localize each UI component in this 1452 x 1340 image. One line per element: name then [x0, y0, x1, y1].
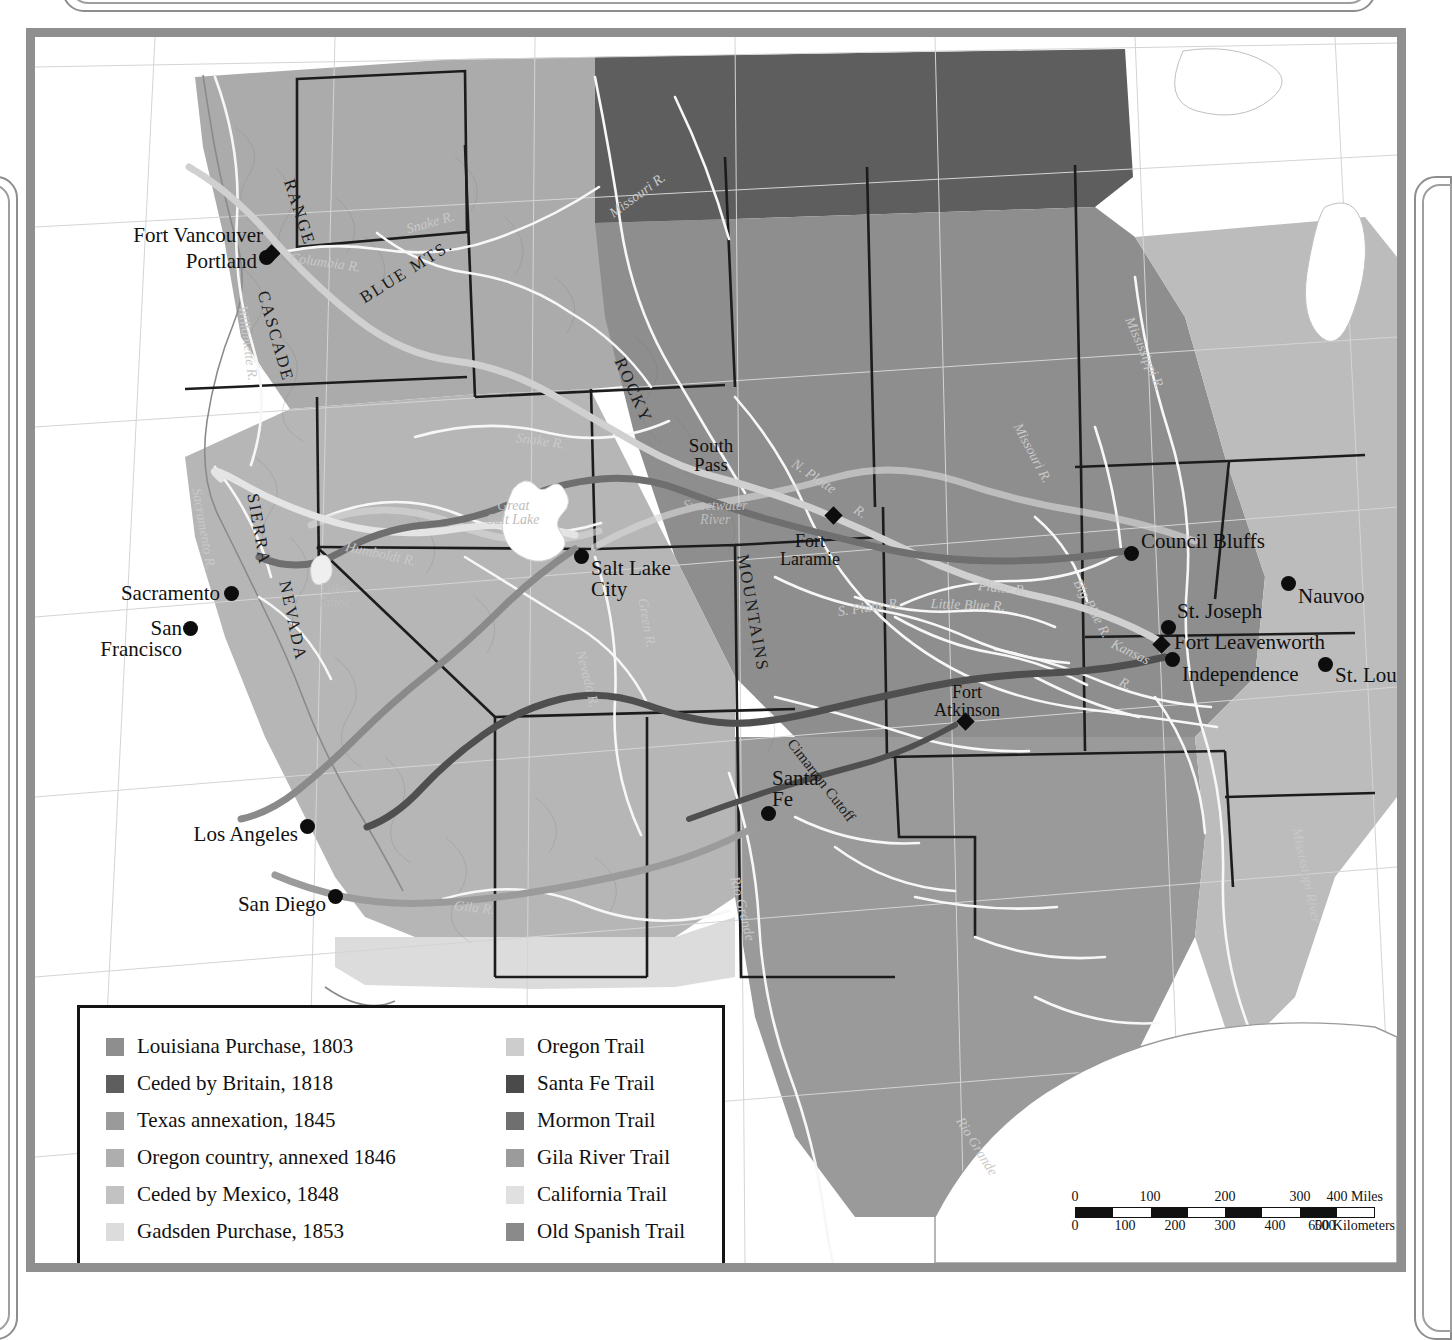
label-st-joseph: St. Joseph — [1177, 601, 1262, 622]
scale-miles-ticks: 0100200300400 Miles — [1075, 1189, 1375, 1207]
scale-miles-tick: 200 — [1215, 1189, 1236, 1205]
legend-item-mormon-trail[interactable]: Mormon Trail — [506, 1108, 685, 1133]
territory-color-swatch — [106, 1112, 124, 1130]
legend-item-label: Oregon country, annexed 1846 — [137, 1145, 396, 1170]
territory-color-swatch — [106, 1186, 124, 1204]
scale-miles-tick: 0 — [1072, 1189, 1079, 1205]
trail-color-swatch — [506, 1038, 524, 1056]
territory-color-swatch — [106, 1223, 124, 1241]
city-marker-portland[interactable] — [259, 250, 274, 265]
label-sweetwater-river: Sweetwater River — [683, 499, 748, 528]
legend-item-ceded-by-mexico-1848[interactable]: Ceded by Mexico, 1848 — [106, 1182, 498, 1207]
scale-km-tick: 300 — [1214, 1218, 1235, 1234]
city-marker-nauvoo[interactable] — [1281, 576, 1296, 591]
trail-color-swatch — [506, 1149, 524, 1167]
legend-item-ceded-by-britain-1818[interactable]: Ceded by Britain, 1818 — [106, 1071, 498, 1096]
label-council-bluffs: Council Bluffs — [1141, 531, 1265, 552]
legend-item-label: Gadsden Purchase, 1853 — [137, 1219, 344, 1244]
scale-km-ticks: 0100200300400500600 Kilometers — [1075, 1218, 1375, 1236]
legend-item-label: Santa Fe Trail — [537, 1071, 655, 1096]
label-south-pass: South Pass — [689, 436, 733, 475]
trail-color-swatch — [506, 1186, 524, 1204]
scale-miles-tick: 100 — [1140, 1189, 1161, 1205]
city-marker-los-angeles[interactable] — [300, 819, 315, 834]
page-frame-top-ornament — [62, 0, 1376, 12]
scale-miles-unit-label: 400 Miles — [1327, 1189, 1383, 1205]
label-portland: Portland — [186, 251, 257, 272]
label-los-angeles: Los Angeles — [194, 824, 298, 845]
label-great-salt-lake: Great Salt Lake — [487, 499, 540, 528]
scale-km-unit-label: 600 Kilometers — [1308, 1218, 1395, 1234]
legend-item-label: Gila River Trail — [537, 1145, 670, 1170]
territory-color-swatch — [106, 1149, 124, 1167]
legend-territories-column: Louisiana Purchase, 1803Ceded by Britain… — [80, 1034, 498, 1244]
trail-color-swatch — [506, 1223, 524, 1241]
scale-km-tick: 200 — [1164, 1218, 1185, 1234]
label-lake-tahoe: Lake Tahoe — [317, 582, 351, 611]
legend-item-louisiana-purchase-1803[interactable]: Louisiana Purchase, 1803 — [106, 1034, 498, 1059]
legend-item-texas-annexation-1845[interactable]: Texas annexation, 1845 — [106, 1108, 498, 1133]
legend-item-california-trail[interactable]: California Trail — [506, 1182, 685, 1207]
scale-miles-tick: 300 — [1290, 1189, 1311, 1205]
legend-item-label: Ceded by Mexico, 1848 — [137, 1182, 339, 1207]
map-scale-bar: 0100200300400 Miles 0100200300400500600 … — [1075, 1189, 1375, 1236]
legend-item-label: Old Spanish Trail — [537, 1219, 685, 1244]
label-little-blue-r: Little Blue R. — [931, 597, 1006, 614]
page-frame-left-ornament — [0, 176, 18, 1340]
label-salt-lake-city: Salt Lake City — [591, 558, 671, 601]
city-marker-salt-lake-city[interactable] — [574, 549, 589, 564]
legend-item-gila-river-trail[interactable]: Gila River Trail — [506, 1145, 685, 1170]
label-sacramento: Sacramento — [121, 583, 220, 604]
city-marker-sacramento[interactable] — [224, 586, 239, 601]
region-ceded-britain — [595, 49, 1133, 223]
page-frame-right-ornament — [1414, 176, 1452, 1340]
city-marker-council-bluffs[interactable] — [1124, 546, 1139, 561]
legend-item-old-spanish-trail[interactable]: Old Spanish Trail — [506, 1219, 685, 1244]
legend-item-label: Oregon Trail — [537, 1034, 645, 1059]
label-fort-vancouver: Fort Vancouver — [133, 225, 263, 246]
label-fort-laramie: Fort Laramie — [780, 532, 840, 569]
legend-item-label: Louisiana Purchase, 1803 — [137, 1034, 353, 1059]
legend-trails-column: Oregon TrailSanta Fe TrailMormon TrailGi… — [498, 1034, 685, 1244]
label-fort-atkinson: Fort Atkinson — [934, 683, 1000, 720]
label-st-louis: St. Louis — [1335, 665, 1397, 686]
label-independence: Independence — [1182, 664, 1299, 685]
map-canvas[interactable]: Fort VancouverPortlandSacramentoSan Fran… — [35, 37, 1397, 1263]
legend-item-label: Ceded by Britain, 1818 — [137, 1071, 333, 1096]
page-frame-left-ornament-inner — [0, 184, 10, 1332]
scale-km-tick: 0 — [1072, 1218, 1079, 1234]
label-fort-leavenworth: Fort Leavenworth — [1174, 632, 1325, 653]
trail-color-swatch — [506, 1112, 524, 1130]
scale-km-tick: 400 — [1264, 1218, 1285, 1234]
legend-item-gadsden-purchase-1853[interactable]: Gadsden Purchase, 1853 — [106, 1219, 498, 1244]
label-nauvoo: Nauvoo — [1298, 586, 1365, 607]
trail-color-swatch — [506, 1075, 524, 1093]
legend-item-santa-fe-trail[interactable]: Santa Fe Trail — [506, 1071, 685, 1096]
page-frame-top-ornament-inner — [70, 0, 1368, 4]
legend-item-label: Texas annexation, 1845 — [137, 1108, 336, 1133]
territory-color-swatch — [106, 1075, 124, 1093]
scale-bar-graphic — [1075, 1207, 1375, 1218]
page-frame-right-ornament-inner — [1422, 184, 1452, 1332]
city-marker-san-francisco[interactable] — [183, 621, 198, 636]
city-marker-san-diego[interactable] — [328, 889, 343, 904]
legend-item-oregon-country-annexed-1846[interactable]: Oregon country, annexed 1846 — [106, 1145, 498, 1170]
legend-item-label: Mormon Trail — [537, 1108, 655, 1133]
city-marker-st-louis[interactable] — [1318, 657, 1333, 672]
map-frame: Fort VancouverPortlandSacramentoSan Fran… — [26, 28, 1406, 1272]
scale-km-tick: 100 — [1114, 1218, 1135, 1234]
territory-color-swatch — [106, 1038, 124, 1056]
map-legend: Louisiana Purchase, 1803Ceded by Britain… — [77, 1005, 725, 1263]
legend-item-oregon-trail[interactable]: Oregon Trail — [506, 1034, 685, 1059]
label-san-diego: San Diego — [238, 894, 326, 915]
legend-item-label: California Trail — [537, 1182, 667, 1207]
label-san-francisco: San Francisco — [100, 618, 182, 661]
